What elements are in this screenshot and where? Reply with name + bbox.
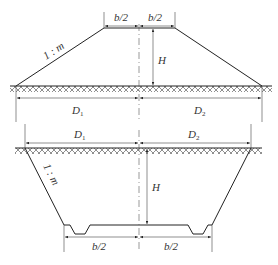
label-slope-top: 1 : m <box>41 39 67 61</box>
label-d1-top: D1 <box>71 104 84 118</box>
label-d1-bottom: D1 <box>73 128 86 142</box>
label-b2-left-top: b/2 <box>114 11 129 23</box>
roadbed-cross-section-diagram: b/2 b/2 H 1 : m D1 D2 D1 D2 H 1 : m <box>0 0 278 265</box>
ground-hatch-bottom <box>15 148 262 154</box>
label-h-bottom: H <box>151 181 161 193</box>
label-b2-right-bottom: b/2 <box>164 240 179 252</box>
label-h-top: H <box>157 54 167 66</box>
embankment-figure: b/2 b/2 H 1 : m D1 D2 <box>10 11 272 122</box>
label-b2-left-bottom: b/2 <box>92 240 107 252</box>
cutting-outline <box>25 148 251 234</box>
label-b2-right-top: b/2 <box>148 11 163 23</box>
label-d2-top: D2 <box>193 104 206 118</box>
ground-hatch-top <box>10 86 272 92</box>
label-d2-bottom: D2 <box>187 128 200 142</box>
cutting-figure: D1 D2 H 1 : m b/2 b/2 <box>15 124 262 252</box>
label-slope-bottom: 1 : m <box>41 161 62 187</box>
